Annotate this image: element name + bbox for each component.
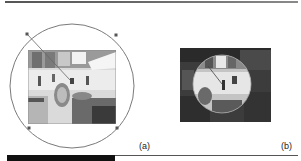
caption-a: (a): [139, 141, 150, 151]
handle-bottom-right[interactable]: [116, 127, 119, 130]
handle-bottom-left[interactable]: [28, 127, 31, 130]
bottom-rule: [115, 155, 298, 156]
handle-top-left[interactable]: [26, 33, 29, 36]
photo-b: [180, 48, 271, 122]
caption-b: (b): [281, 141, 292, 151]
handle-top-right[interactable]: [115, 34, 118, 37]
figure-canvas: [0, 0, 301, 161]
photo-a: [28, 50, 116, 124]
bottom-bar: [7, 155, 115, 161]
